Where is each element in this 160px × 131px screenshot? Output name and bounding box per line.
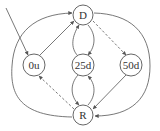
svg-text:25d: 25d [75,59,92,71]
edge-R-to-25d [88,76,94,105]
edge-25d-to-D [73,25,79,56]
svg-text:50d: 50d [123,59,140,71]
svg-text:D: D [79,9,87,21]
edge-R-to-0u [39,76,74,109]
node-D: D [73,5,93,25]
edge-50d-to-R [93,75,126,109]
node-0u: 0u [23,54,45,76]
svg-text:0u: 0u [29,59,41,71]
edge-D-to-25d [88,25,94,55]
edge-D-to-50d [93,21,126,55]
node-50d: 50d [120,54,142,76]
state-diagram: D 0u 25d 50d R [0,0,160,131]
svg-text:R: R [79,109,87,121]
edge-25d-to-R [72,75,79,105]
node-R: R [73,105,93,125]
node-25d: 25d [72,54,94,76]
edge-0u-to-D [39,21,74,56]
